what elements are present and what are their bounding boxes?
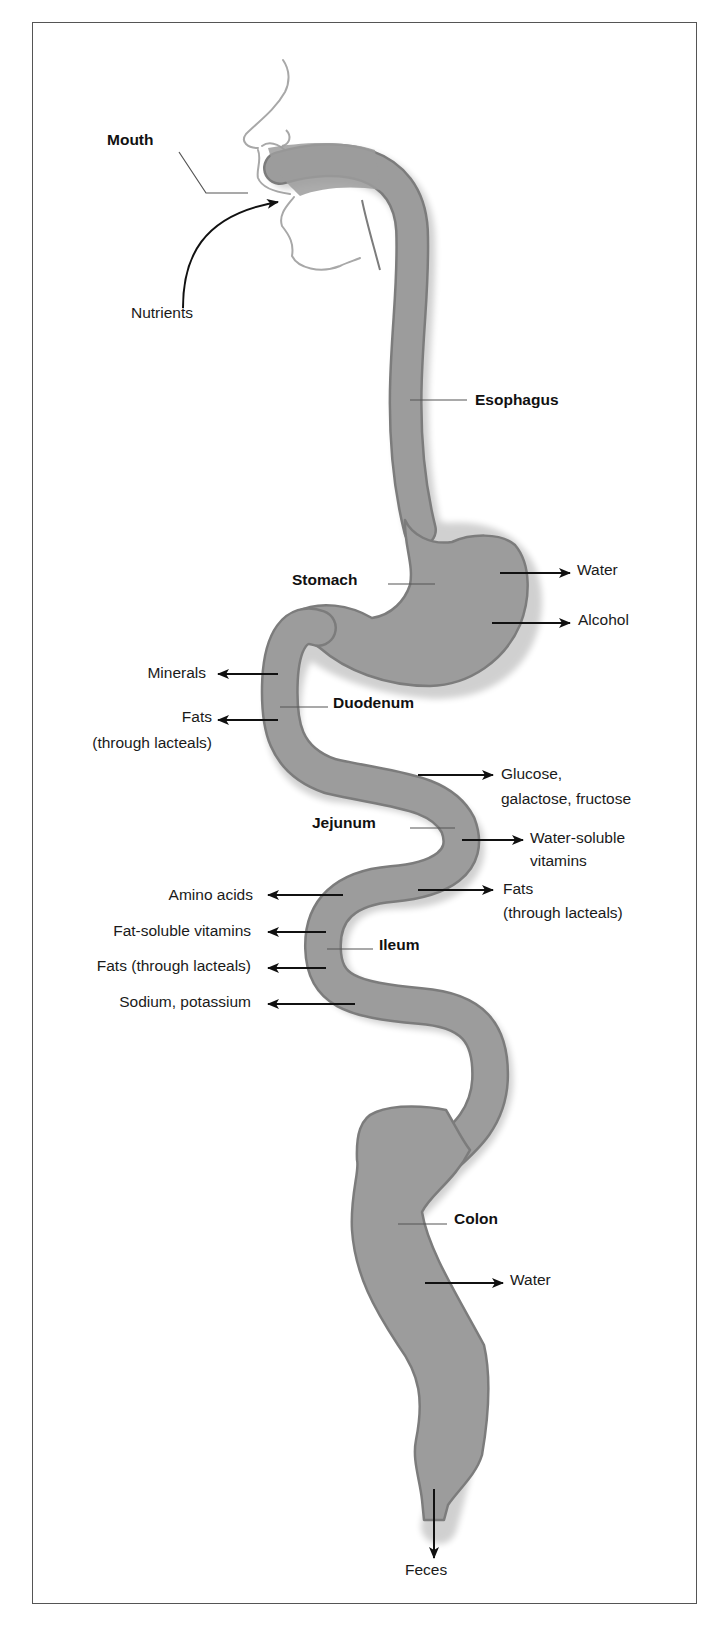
label-ileum-sodium: Sodium, potassium bbox=[119, 994, 251, 1010]
label-ileum-fatsoluble: Fat-soluble vitamins bbox=[113, 923, 251, 939]
label-duodenum-minerals: Minerals bbox=[147, 665, 206, 681]
label-jejunum-fats: Fats bbox=[503, 881, 533, 897]
label-stomach-alcohol: Alcohol bbox=[578, 612, 629, 628]
label-jejunum-fats-sub: (through lacteals) bbox=[503, 905, 623, 921]
label-colon-water: Water bbox=[510, 1272, 551, 1288]
label-stomach-water: Water bbox=[577, 562, 618, 578]
label-esophagus: Esophagus bbox=[475, 392, 559, 408]
label-jejunum-glucose-sub: galactose, fructose bbox=[501, 791, 631, 807]
label-duodenum-fats-sub: (through lacteals) bbox=[92, 735, 212, 751]
label-jejunum-vitamins-sub: vitamins bbox=[530, 853, 587, 869]
label-ileum-amino: Amino acids bbox=[169, 887, 253, 903]
nostril bbox=[282, 130, 289, 146]
label-stomach: Stomach bbox=[292, 572, 357, 588]
label-nutrients: Nutrients bbox=[131, 305, 193, 321]
label-duodenum-fats: Fats bbox=[182, 709, 212, 725]
absorption-arrows bbox=[218, 573, 570, 1558]
label-ileum-fats: Fats (through lacteals) bbox=[97, 958, 251, 974]
label-jejunum-glucose: Glucose, bbox=[501, 766, 562, 782]
label-colon: Colon bbox=[454, 1211, 498, 1227]
label-mouth: Mouth bbox=[107, 132, 153, 148]
label-feces: Feces bbox=[405, 1562, 447, 1578]
label-jejunum-vitamins: Water-soluble bbox=[530, 830, 625, 846]
label-jejunum: Jejunum bbox=[312, 815, 376, 831]
label-duodenum: Duodenum bbox=[333, 695, 414, 711]
leader-mouth bbox=[179, 152, 248, 193]
label-ileum: Ileum bbox=[379, 937, 419, 953]
digestive-tract-illustration bbox=[0, 0, 717, 1625]
nutrients-arrow-icon bbox=[183, 202, 278, 308]
